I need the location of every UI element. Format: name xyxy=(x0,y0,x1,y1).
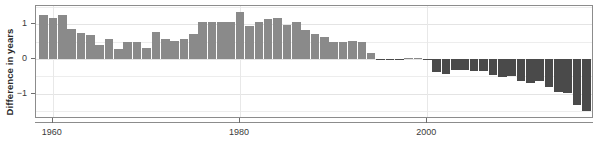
bar-2002 xyxy=(442,59,451,74)
bar-1995 xyxy=(376,59,385,60)
bar-1972 xyxy=(161,39,170,59)
bar-2010 xyxy=(517,59,526,81)
bar-1968 xyxy=(123,42,132,59)
bar-1989 xyxy=(320,37,329,59)
gridline-horizontal xyxy=(36,24,592,25)
bar-1997 xyxy=(395,59,404,60)
bar-2012 xyxy=(535,59,544,81)
bar-1981 xyxy=(245,26,254,59)
bar-1962 xyxy=(67,29,76,59)
x-tick-label: 2000 xyxy=(416,127,436,137)
chart-figure: Difference in years 10−1 196019802000 xyxy=(0,0,609,144)
y-tick-label: 1 xyxy=(22,18,27,28)
x-tick-mark xyxy=(426,118,427,123)
bar-1973 xyxy=(170,41,179,59)
bar-2007 xyxy=(489,59,498,75)
gridline-vertical xyxy=(427,6,428,117)
bar-1977 xyxy=(208,22,217,59)
bar-1990 xyxy=(329,42,338,59)
x-tick-label: 1980 xyxy=(229,127,249,137)
bar-1996 xyxy=(386,59,395,60)
y-tick-label: −1 xyxy=(17,88,27,98)
x-tick-mark xyxy=(239,118,240,123)
bar-2011 xyxy=(526,59,535,83)
bar-1961 xyxy=(58,15,67,59)
bar-2016 xyxy=(573,59,582,105)
bar-1978 xyxy=(217,22,226,59)
bar-1965 xyxy=(95,45,104,59)
bar-2005 xyxy=(470,59,479,71)
bar-2013 xyxy=(545,59,554,87)
bar-1998 xyxy=(404,58,413,59)
bar-1999 xyxy=(414,58,423,59)
bar-1980 xyxy=(236,12,245,59)
bar-1991 xyxy=(339,42,348,59)
bar-1983 xyxy=(264,19,273,59)
bar-1975 xyxy=(189,34,198,59)
plot-area xyxy=(35,5,593,118)
bar-2004 xyxy=(460,59,469,70)
bar-2008 xyxy=(498,59,507,77)
bar-2003 xyxy=(451,59,460,70)
bar-1959 xyxy=(39,15,48,59)
bar-2001 xyxy=(432,59,441,72)
bar-2009 xyxy=(507,59,516,76)
bar-1988 xyxy=(311,34,320,59)
bar-1986 xyxy=(292,22,301,59)
gridline-horizontal xyxy=(36,94,592,95)
bar-1993 xyxy=(358,42,367,59)
bar-1960 xyxy=(49,18,58,59)
y-axis-ticks: 10−1 xyxy=(0,0,35,144)
bar-1963 xyxy=(77,33,86,60)
bar-1987 xyxy=(301,30,310,59)
bar-1984 xyxy=(273,18,282,59)
bar-1992 xyxy=(348,41,357,59)
gridline-horizontal xyxy=(36,111,592,112)
bar-2006 xyxy=(479,59,488,71)
bar-1964 xyxy=(86,35,95,59)
bar-1979 xyxy=(226,22,235,59)
bar-1966 xyxy=(105,39,114,59)
bar-1967 xyxy=(114,49,123,59)
bar-2000 xyxy=(423,59,432,60)
bar-1994 xyxy=(367,53,376,59)
bar-1971 xyxy=(152,32,161,59)
bar-1970 xyxy=(142,48,151,59)
bar-1985 xyxy=(283,25,292,59)
x-axis-line xyxy=(35,122,593,123)
x-tick-mark xyxy=(52,118,53,123)
bar-2015 xyxy=(563,59,572,93)
bar-1969 xyxy=(133,42,142,59)
bar-1976 xyxy=(198,22,207,59)
bar-1982 xyxy=(255,22,264,59)
bar-2014 xyxy=(554,59,563,92)
gridline-horizontal xyxy=(36,7,592,8)
y-tick-label: 0 xyxy=(22,53,27,63)
x-tick-label: 1960 xyxy=(42,127,62,137)
bar-2017 xyxy=(582,59,591,111)
bar-1974 xyxy=(180,39,189,59)
